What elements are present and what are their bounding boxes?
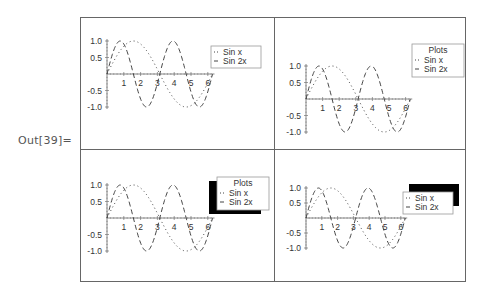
y-tick-label: -1.0 [87,102,102,112]
x-tick-label: 4 [172,222,177,232]
legend-entry: Sin 2x [223,56,247,66]
y-tick-label: -1.0 [286,127,301,137]
x-tick-label: 4 [172,78,177,88]
legend: Sin xSin 2x [211,46,261,68]
y-tick-label: -1.0 [87,246,102,256]
y-tick-label: 0.5 [289,78,301,88]
y-tick-label: -0.5 [286,228,301,238]
output-cell-label: Out[39]= [18,134,72,147]
y-tick-label: 0.5 [289,198,301,208]
axes: 1234561.00.5-0.5-1.0 [286,61,412,137]
legend-title: Plots [234,178,253,188]
x-tick-label: 5 [189,222,194,232]
axes: 1234561.00.5-0.5-1.0 [87,180,214,256]
legend: Sin xSin 2x [403,184,459,214]
x-tick-label: 1 [121,78,126,88]
y-tick-label: 1.0 [90,36,102,46]
y-tick-label: -0.5 [87,230,102,240]
y-tick-label: -1.0 [286,243,301,253]
axes: 1234561.00.5-0.5-1.0 [87,36,214,112]
legend-title: Plots [429,45,448,55]
legend-entry: Sin 2x [229,197,253,207]
y-tick-label: 0.5 [90,53,102,63]
x-tick-label: 1 [121,222,126,232]
x-tick-label: 2 [138,78,143,88]
x-tick-label: 4 [367,222,372,232]
y-tick-label: 1.0 [289,61,301,71]
legend: PlotsSin xSin 2x [412,44,464,77]
plot-top-right: 1234561.00.5-0.5-1.0PlotsSin xSin 2x [274,17,466,148]
x-tick-label: 2 [335,222,340,232]
plot-top-left: 1234561.00.5-0.5-1.0Sin xSin 2x [80,17,273,148]
y-tick-label: 1.0 [90,180,102,190]
y-tick-label: -0.5 [286,111,301,121]
x-tick-label: 5 [387,103,392,113]
x-tick-label: 5 [189,78,194,88]
y-tick-label: 1.0 [289,183,301,193]
x-tick-label: 2 [138,222,143,232]
x-tick-label: 4 [370,103,375,113]
plot-bottom-right: 1234561.00.5-0.5-1.0Sin xSin 2x [274,149,466,282]
legend: PlotsSin xSin 2x [209,177,269,214]
legend-entry: Sin 2x [424,64,448,74]
x-tick-label: 1 [319,222,324,232]
x-tick-label: 1 [320,103,325,113]
y-tick-label: 0.5 [90,197,102,207]
legend-entry: Sin 2x [415,202,439,212]
x-tick-label: 2 [337,103,342,113]
plot-bottom-left: 1234561.00.5-0.5-1.0PlotsSin xSin 2x [80,149,273,282]
axes: 1234561.00.5-0.5-1.0 [286,183,407,253]
y-tick-label: -0.5 [87,86,102,96]
